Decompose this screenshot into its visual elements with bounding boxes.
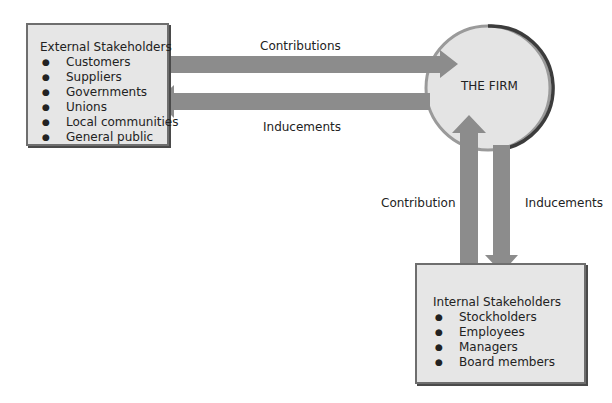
- list-item: Stockholders: [433, 310, 584, 325]
- internal-stakeholders-list: Stockholders Employees Managers Board me…: [433, 310, 584, 370]
- inducements-arrow-internal: [485, 145, 518, 273]
- list-item: Customers: [40, 55, 167, 70]
- internal-stakeholders-box: Internal Stakeholders Stockholders Emplo…: [415, 263, 586, 384]
- inducements-label-external: Inducements: [263, 120, 341, 134]
- list-item: Managers: [433, 340, 584, 355]
- firm-label: THE FIRM: [461, 79, 518, 93]
- list-item: General public: [40, 130, 167, 145]
- external-stakeholders-title: External Stakeholders: [40, 40, 167, 54]
- list-item: Unions: [40, 100, 167, 115]
- contributions-arrow: [168, 50, 458, 78]
- external-stakeholders-list: Customers Suppliers Governments Unions L…: [40, 55, 167, 145]
- list-item: Board members: [433, 355, 584, 370]
- list-item: Governments: [40, 85, 167, 100]
- inducements-arrow-external: [157, 85, 430, 118]
- list-item: Suppliers: [40, 70, 167, 85]
- internal-stakeholders-title: Internal Stakeholders: [433, 295, 584, 309]
- list-item: Employees: [433, 325, 584, 340]
- external-stakeholders-box: External Stakeholders Customers Supplier…: [26, 23, 169, 146]
- list-item: Local communities: [40, 115, 167, 130]
- contribution-label-internal: Contribution: [381, 196, 456, 210]
- inducements-label-internal: Inducements: [525, 196, 603, 210]
- contributions-label: Contributions: [260, 39, 341, 53]
